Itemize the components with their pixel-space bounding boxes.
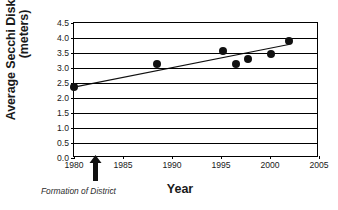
data-point [70,83,78,91]
x-tick-mark [172,156,173,159]
up-arrow-icon [89,155,102,181]
gridline [74,68,317,69]
y-tick-mark [71,38,74,39]
gridline [74,143,317,144]
data-point [232,60,240,68]
y-tick-label: 4.5 [57,18,69,28]
chart-figure: Average Secchi Disk Reading (meters) 0.0… [0,0,338,210]
gridline [74,113,317,114]
gridline [74,128,317,129]
y-tick-label: 2.5 [57,78,69,88]
y-tick-label: 1.0 [57,123,69,133]
y-tick-mark [71,143,74,144]
x-axis-title-text: Year [167,182,193,196]
x-tick-label: 1995 [211,160,230,170]
y-tick-mark [71,68,74,69]
y-tick-mark [71,98,74,99]
y-tick-label: 4.0 [57,33,69,43]
y-tick-label: 3.5 [57,48,69,58]
x-tick-label: 2005 [309,160,328,170]
y-tick-mark [71,53,74,54]
y-tick-mark [71,23,74,24]
y-tick-label: 0.5 [57,138,69,148]
y-axis-title: Average Secchi Disk Reading (meters) [0,0,38,114]
formation-of-district-label: Formation of District [41,186,116,196]
data-point [219,47,227,55]
data-point [267,50,275,58]
x-tick-mark [74,156,75,159]
x-tick-label: 2000 [260,160,279,170]
x-tick-label: 1980 [64,160,83,170]
gridline [74,38,317,39]
y-tick-label: 1.5 [57,108,69,118]
y-tick-mark [71,128,74,129]
gridline [74,98,317,99]
y-axis-title-line1: Average Secchi Disk Reading [5,0,19,120]
x-tick-mark [319,156,320,159]
trend-line [74,23,317,156]
gridline [74,53,317,54]
x-tick-mark [123,156,124,159]
data-point [285,37,293,45]
y-tick-label: 2.0 [57,93,69,103]
x-tick-label: 1990 [162,160,181,170]
x-tick-label: 1985 [113,160,132,170]
y-tick-mark [71,113,74,114]
plot-area: 0.00.51.01.52.02.53.03.54.04.51980198519… [73,22,318,157]
y-tick-label: 3.0 [57,63,69,73]
y-axis-title-line2: (meters) [18,10,32,59]
gridline [74,83,317,84]
x-tick-mark [270,156,271,159]
x-tick-mark [221,156,222,159]
